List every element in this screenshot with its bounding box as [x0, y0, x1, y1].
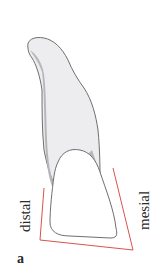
panel-label: a — [17, 252, 24, 266]
tooth-crown — [50, 150, 117, 239]
mesial-reference-line — [113, 168, 133, 250]
tooth-diagram: distal mesial a — [0, 0, 164, 272]
mesial-label: mesial — [137, 191, 152, 230]
distal-label: distal — [18, 200, 33, 233]
